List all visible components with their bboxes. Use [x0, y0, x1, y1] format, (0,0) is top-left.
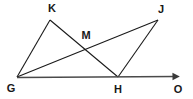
segment-GK — [17, 20, 50, 77]
geometry-canvas — [0, 0, 193, 99]
vertex-label-O: O — [174, 84, 183, 95]
geometry-diagram: G K M J H O — [0, 0, 193, 99]
vertex-label-K: K — [48, 3, 56, 14]
ray-GO — [17, 77, 176, 78]
vertex-label-J: J — [158, 4, 164, 15]
vertex-label-H: H — [114, 84, 122, 95]
vertex-label-G: G — [7, 83, 16, 94]
vertex-label-M: M — [81, 30, 90, 41]
